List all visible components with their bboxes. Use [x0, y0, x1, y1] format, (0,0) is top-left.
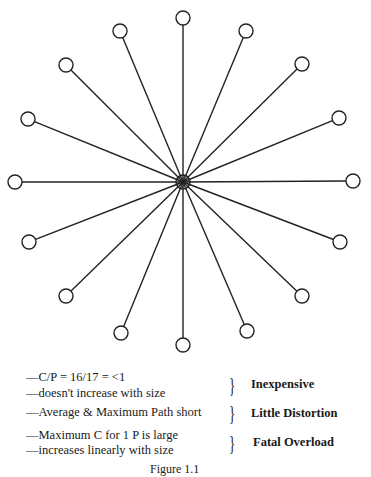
note-2-line-1: —Average & Maximum Path short	[26, 405, 201, 420]
peripheral-node	[114, 326, 128, 340]
spoke-line	[34, 122, 183, 182]
spoke-line	[183, 69, 297, 182]
spoke-line	[123, 37, 183, 182]
peripheral-node	[59, 58, 73, 72]
spoke-line	[183, 182, 244, 325]
peripheral-node	[113, 24, 127, 38]
spoke-line	[71, 182, 183, 291]
note-1-line-2: —doesn't increase with size	[26, 386, 165, 401]
note-2-label: Little Distortion	[251, 406, 337, 421]
note-1-label: Inexpensive	[251, 377, 314, 392]
peripheral-node	[59, 289, 73, 303]
spoke-line	[124, 182, 183, 327]
peripheral-node	[176, 11, 190, 25]
brace-2: }	[229, 402, 235, 424]
brace-1: }	[229, 374, 235, 396]
note-1-line-1: —C/P = 16/17 = <1	[26, 370, 125, 385]
brace-3: }	[229, 432, 235, 454]
spoke-line	[183, 181, 346, 182]
peripheral-node	[332, 111, 346, 125]
peripheral-node	[176, 338, 190, 352]
peripheral-node	[21, 112, 35, 126]
spoke-line	[183, 182, 333, 240]
hub-node	[176, 175, 190, 189]
peripheral-node	[295, 57, 309, 71]
peripheral-node	[22, 235, 36, 249]
peripheral-node	[295, 289, 309, 303]
peripheral-node	[239, 24, 253, 38]
spoke-line	[183, 182, 297, 291]
star-network-diagram	[0, 0, 371, 360]
peripheral-node	[333, 235, 347, 249]
peripheral-node	[240, 324, 254, 338]
spoke-line	[71, 70, 183, 182]
peripheral-node	[8, 175, 22, 189]
note-3-line-2: —increases linearly with size	[26, 443, 174, 458]
note-3-line-1: —Maximum C for 1 P is large	[26, 428, 178, 443]
figure-caption: Figure 1.1	[150, 462, 199, 477]
note-3-label: Fatal Overload	[253, 435, 334, 450]
spoke-line	[36, 182, 183, 239]
peripheral-node	[346, 174, 360, 188]
